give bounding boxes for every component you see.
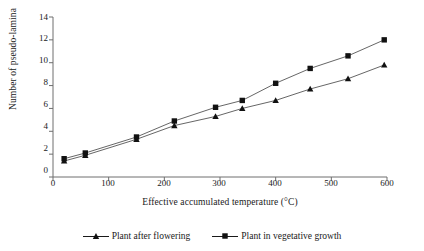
x-tick-label: 300 bbox=[204, 179, 234, 188]
plot-area bbox=[0, 0, 424, 251]
square-glyph bbox=[221, 232, 229, 240]
x-tick-label: 200 bbox=[149, 179, 179, 188]
square-marker-icon bbox=[212, 231, 238, 241]
y-tick-label: 6 bbox=[28, 100, 48, 109]
y-tick-label: 8 bbox=[28, 78, 48, 87]
y-axis-tick-labels: 14 12 10 8 6 4 2 0 bbox=[22, 0, 48, 180]
x-axis-title: Effective accumulated temperature (°C) bbox=[53, 197, 387, 207]
legend-item-plant-after-flowering[interactable]: Plant after flowering bbox=[83, 231, 191, 241]
chart-legend: Plant after flowering Plant in vegetativ… bbox=[0, 226, 424, 246]
y-tick-label: 14 bbox=[28, 13, 48, 22]
triangle-glyph bbox=[92, 232, 100, 240]
chart-figure: Number of pseudo-lamina 14 12 10 8 6 4 2… bbox=[0, 0, 424, 251]
x-tick-label: 500 bbox=[316, 179, 346, 188]
y-tick-label: 12 bbox=[28, 34, 48, 43]
y-tick-label: 2 bbox=[28, 144, 48, 153]
x-tick-label: 0 bbox=[38, 179, 68, 188]
axes bbox=[49, 17, 387, 181]
y-tick-label: 0 bbox=[28, 166, 48, 175]
legend-item-plant-in-vegetative-growth[interactable]: Plant in vegetative growth bbox=[212, 231, 341, 241]
x-tick-label: 600 bbox=[372, 179, 402, 188]
y-axis-title: Number of pseudo-lamina bbox=[8, 0, 18, 134]
y-tick-label: 10 bbox=[28, 56, 48, 65]
triangle-marker-icon bbox=[83, 231, 109, 241]
x-tick-label: 100 bbox=[93, 179, 123, 188]
y-tick-label: 4 bbox=[28, 122, 48, 131]
x-tick-label: 400 bbox=[260, 179, 290, 188]
legend-label: Plant after flowering bbox=[112, 231, 191, 241]
x-axis-tick-labels: 0 100 200 300 400 500 600 bbox=[0, 179, 424, 195]
data-series bbox=[61, 37, 387, 163]
legend-label: Plant in vegetative growth bbox=[241, 231, 341, 241]
